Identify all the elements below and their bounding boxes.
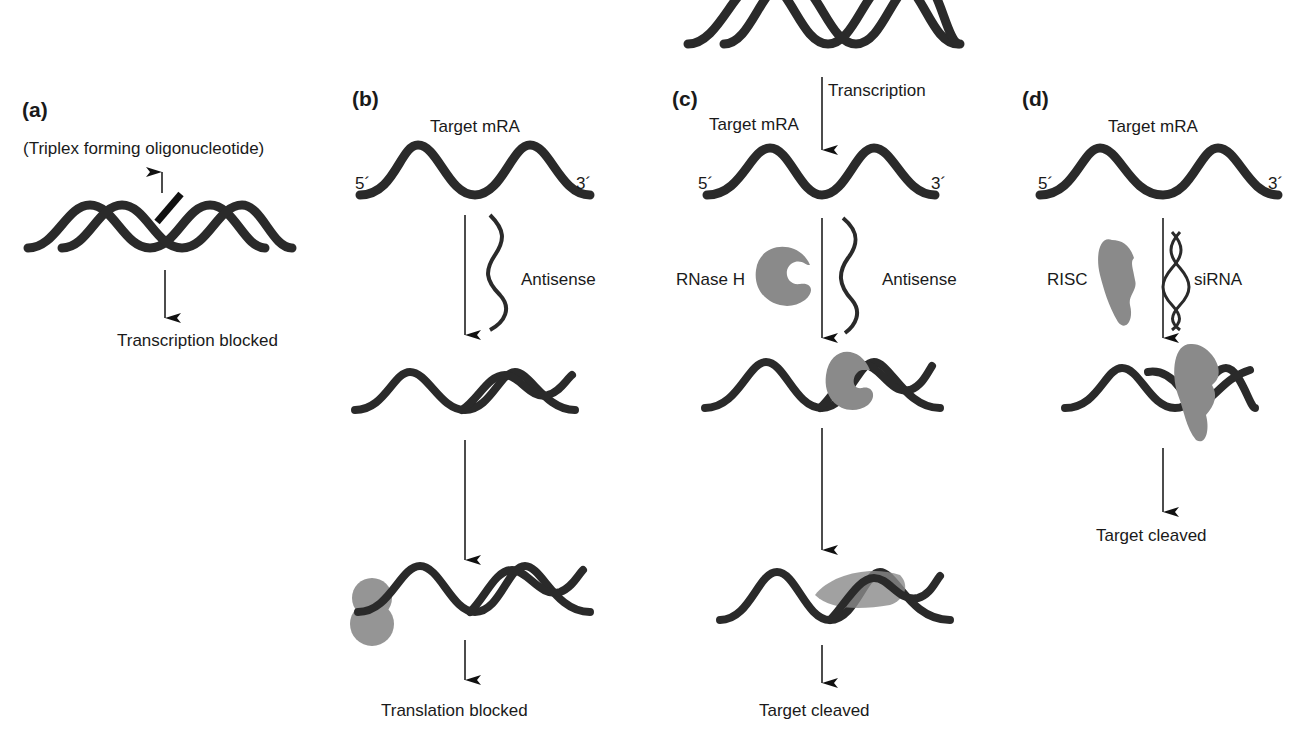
five-prime-c: 5´ [698, 175, 713, 192]
risc-label: RISC [1047, 271, 1088, 288]
risc-d [1098, 239, 1135, 325]
duplex-c [705, 362, 940, 408]
panel-label-a: (a) [22, 99, 48, 120]
outcome-c: Target cleaved [759, 702, 870, 719]
antisense-label-c: Antisense [882, 271, 957, 288]
antisense-strand-c [841, 218, 857, 333]
antisense-label-b: Antisense [521, 271, 596, 288]
mrna-d [1040, 148, 1278, 195]
diagram-canvas [0, 0, 1300, 742]
transcription-label: Transcription [828, 82, 926, 99]
five-prime-d: 5´ [1038, 175, 1053, 192]
rnase-h-label: RNase H [676, 271, 745, 288]
three-prime-c: 3´ [931, 175, 946, 192]
target-mra-c: Target mRA [709, 116, 799, 133]
risc-bound-d [1174, 344, 1218, 441]
target-mra-d: Target mRA [1108, 118, 1198, 135]
triplex-label: (Triplex forming oligonucleotide) [23, 140, 264, 157]
sirna-label: siRNA [1194, 271, 1242, 288]
mrna-b [360, 145, 590, 195]
sirna-d [1163, 232, 1189, 330]
three-prime-b: 3´ [576, 175, 591, 192]
outcome-a: Transcription blocked [117, 332, 278, 349]
cleaved-c [720, 571, 950, 620]
panel-label-d: (d) [1022, 88, 1049, 109]
dna-helix-a [28, 205, 292, 248]
duplex-d [1065, 368, 1255, 408]
antisense-strand-b [488, 215, 506, 330]
panel-label-b: (b) [352, 88, 379, 109]
triplex-oligo [157, 194, 181, 222]
three-prime-d: 3´ [1268, 175, 1283, 192]
target-mra-b: Target mRA [430, 118, 520, 135]
mrna-c [707, 148, 935, 195]
duplex-b [355, 372, 575, 410]
outcome-b: Translation blocked [381, 702, 528, 719]
panel-label-c: (c) [672, 88, 698, 109]
duplex-b2 [358, 566, 590, 612]
rnase-h-c [756, 247, 811, 306]
five-prime-b: 5´ [355, 175, 370, 192]
outcome-d: Target cleaved [1096, 527, 1207, 544]
dna-helix-top [688, 0, 960, 44]
